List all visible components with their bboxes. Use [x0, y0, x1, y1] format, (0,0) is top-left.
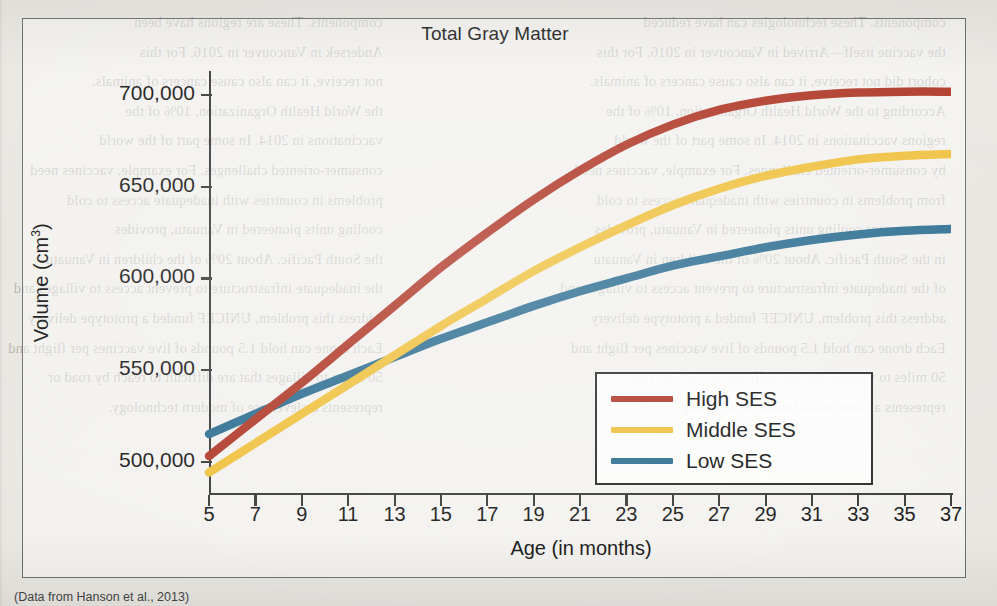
- legend-item-label: Middle SES: [686, 418, 796, 442]
- legend-swatch-icon: [611, 396, 673, 402]
- x-axis-title: Age (in months): [209, 537, 953, 560]
- legend-item-high-ses[interactable]: High SES: [611, 383, 871, 414]
- x-axis-tick-label: 13: [375, 503, 415, 526]
- figure-caption-fragment: (Data from Hanson et al., 2013): [14, 590, 189, 605]
- x-axis-tick-label: 27: [699, 503, 739, 526]
- x-axis-tick-label: 23: [606, 503, 646, 526]
- y-axis-title-exponent: 3: [29, 230, 43, 237]
- x-axis-tick-label: 37: [931, 503, 971, 526]
- x-axis-tick-label: 29: [746, 503, 786, 526]
- legend-item-label: High SES: [686, 387, 777, 411]
- y-axis-tick-label: 650,000: [119, 173, 195, 197]
- chart-legend: High SESMiddle SESLow SES: [595, 372, 873, 485]
- legend-swatch-icon: [611, 427, 673, 433]
- figure-frame: Total Gray Matter 500,000550,000600,0006…: [22, 18, 966, 578]
- x-axis-tick-label: 15: [421, 503, 461, 526]
- y-axis-tick-label: 550,000: [119, 356, 195, 380]
- x-axis-tick-label: 33: [838, 503, 878, 526]
- y-axis-title-close: ): [30, 223, 52, 230]
- legend-item-label: Low SES: [686, 449, 772, 473]
- x-axis-tick-label: 35: [885, 503, 925, 526]
- y-axis-title: Volume (cm3): [29, 113, 53, 453]
- x-axis-tick-label: 21: [560, 503, 600, 526]
- x-axis-tick-label: 25: [653, 503, 693, 526]
- y-axis-title-base: Volume (cm: [30, 237, 52, 343]
- legend-swatch-icon: [611, 458, 673, 464]
- legend-item-middle-ses[interactable]: Middle SES: [611, 414, 871, 445]
- x-axis-tick-label: 5: [189, 503, 229, 526]
- x-axis-tick-label: 9: [282, 503, 322, 526]
- x-axis-tick-label: 11: [328, 503, 368, 526]
- x-axis-tick-label: 19: [514, 503, 554, 526]
- legend-item-low-ses[interactable]: Low SES: [611, 445, 871, 476]
- x-axis-tick-label: 31: [792, 503, 832, 526]
- x-axis-tick-label: 17: [467, 503, 507, 526]
- y-axis-tick-label: 500,000: [119, 448, 195, 472]
- x-axis-tick-label: 7: [235, 503, 275, 526]
- y-axis-tick-label: 600,000: [119, 264, 195, 288]
- y-axis-tick-label: 700,000: [119, 81, 195, 105]
